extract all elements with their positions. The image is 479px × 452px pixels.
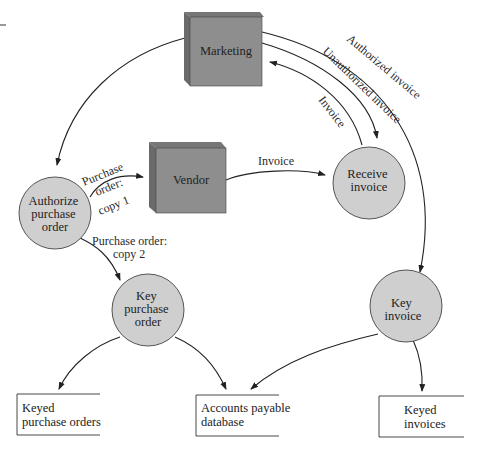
store-label: database: [201, 415, 244, 429]
flow-label-vendor-invoice: Invoice: [258, 154, 294, 168]
flow-key-po-to-keyed-po: [59, 337, 120, 389]
entity-vendor: Vendor: [149, 142, 226, 213]
process-key-invoice: Key invoice: [370, 270, 442, 342]
process-receive-invoice: Receive invoice: [333, 147, 405, 219]
data-flow-diagram: Marketing Vendor Authorize purchase orde…: [0, 0, 479, 452]
store-label: Accounts payable: [201, 401, 291, 415]
store-label: invoices: [404, 417, 446, 431]
flow-label-po-copy2: copy 2: [113, 247, 145, 261]
store-label: Keyed: [22, 401, 55, 415]
flow-label-po-copy2: Purchase order:: [92, 234, 167, 248]
process-key-purchase-order: Key purchase order: [112, 274, 184, 346]
flow-key-po-to-ap-db: [175, 337, 226, 389]
svg-text:Receive invoice: Receive invoice: [347, 167, 390, 194]
entity-label: Marketing: [200, 44, 253, 58]
process-authorize-purchase-order: Authorize purchase order: [19, 177, 91, 249]
flow-key-invoice-to-ap-db: [251, 334, 378, 389]
flow-label-invoice-to-marketing: Invoice: [316, 93, 349, 130]
flow-label-authorized-invoice: Authorized invoice: [344, 32, 424, 102]
flow-vendor-to-receive: [226, 171, 325, 180]
entity-marketing: Marketing: [184, 12, 264, 86]
entity-label: Vendor: [173, 173, 210, 187]
flow-key-invoice-to-keyed-invoices: [413, 340, 422, 391]
store-label: purchase orders: [22, 415, 101, 429]
store-label: Keyed: [404, 403, 437, 417]
